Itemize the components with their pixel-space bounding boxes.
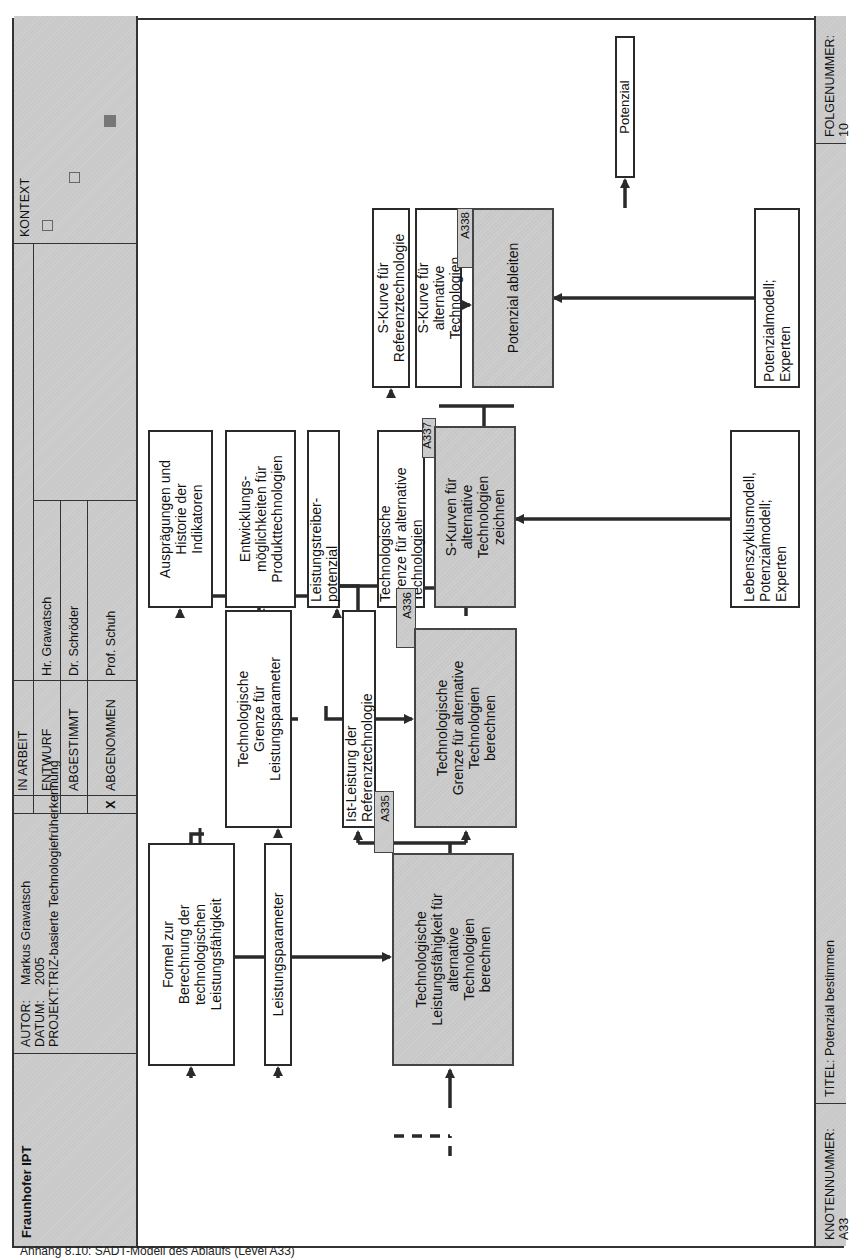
author-label: AUTOR: bbox=[19, 985, 33, 1047]
status-in-arbeit: IN ARBEIT bbox=[14, 680, 34, 795]
status-table: IN ARBEIT ENTWURF Hr. Grawatsch ABGESTIM… bbox=[14, 243, 136, 813]
status-person-3: Prof. Schuh bbox=[88, 500, 136, 680]
context-label: KONTEXT bbox=[18, 178, 32, 237]
activity-a335: Technologische Leistungsfähigkeit für al… bbox=[392, 853, 514, 1066]
status-mark-1 bbox=[34, 795, 61, 813]
output-grenze-alternative: Technologische Grenze für alternative Te… bbox=[377, 430, 425, 608]
context-filled-square-icon bbox=[104, 115, 116, 127]
status-entwurf: ENTWURF bbox=[34, 680, 61, 795]
input-formel: Formel zur Berechnung der technologische… bbox=[148, 843, 235, 1066]
project-label: PROJEKT: bbox=[47, 987, 61, 1047]
input-entwicklung: Entwicklungs- möglichkeiten für Produktt… bbox=[225, 430, 296, 608]
status-mark-0 bbox=[14, 795, 34, 813]
sequence-number: FOLGENUMMER: 10 bbox=[816, 20, 846, 143]
status-person-1: Hr. Grawatsch bbox=[34, 500, 61, 680]
status-spacer bbox=[34, 243, 136, 500]
header-strip: Fraunhofer IPT AUTOR:Markus Grawatsch DA… bbox=[14, 16, 138, 1246]
figure-caption: Anhang 8.10: SADT-Modell des Ablaufs (Le… bbox=[20, 1244, 295, 1258]
node-number: KNOTENNUMMER: A33 bbox=[816, 1103, 846, 1246]
footer-strip: KNOTENNUMMER: A33 TITEL: Potenzial besti… bbox=[814, 16, 846, 1246]
status-person-0 bbox=[14, 243, 34, 680]
context-square-icon bbox=[69, 172, 80, 183]
date-label: DATUM: bbox=[33, 985, 47, 1047]
node-tag-a336: A336 bbox=[396, 588, 416, 648]
output-skurve-alternative: S-Kurve für alternative Technologien bbox=[415, 208, 462, 388]
activity-a338: Potenzial ableiten bbox=[472, 208, 554, 388]
diagram-frame: Fraunhofer IPT AUTOR:Markus Grawatsch DA… bbox=[12, 18, 844, 1248]
context-square-icon bbox=[42, 220, 53, 231]
output-potenzial: Potenzial bbox=[615, 36, 635, 178]
activity-a337: S-Kurven für alternative Technologien ze… bbox=[434, 426, 516, 608]
input-auspraegungen: Ausprägungen und Historie der Indikatore… bbox=[148, 430, 213, 608]
status-person-2: Dr. Schröder bbox=[61, 500, 88, 680]
sadt-diagram-page: Fraunhofer IPT AUTOR:Markus Grawatsch DA… bbox=[12, 12, 848, 1248]
status-mark-2 bbox=[61, 795, 88, 813]
input-leistungsparameter: Leistungsparameter bbox=[264, 843, 292, 1066]
status-abgenommen: ABGENOMMEN bbox=[88, 680, 136, 795]
status-abgestimmt: ABGESTIMMT bbox=[61, 680, 88, 795]
input-leistungstreiber: Leistungstreiber- potenzial bbox=[307, 430, 340, 608]
output-grenze-leistungsparameter: Technologische Grenze für Leistungsparam… bbox=[225, 610, 292, 828]
date-value: 2005 bbox=[33, 957, 47, 985]
author-value: Markus Grawatsch bbox=[19, 881, 33, 985]
output-ist-leistung: Ist-Leistung der Referenztechnologie bbox=[342, 610, 376, 828]
context-cell: KONTEXT bbox=[14, 20, 136, 243]
status-mark-3: X bbox=[88, 795, 136, 813]
organization-label: Fraunhofer IPT bbox=[14, 1053, 136, 1246]
meta-block: AUTOR:Markus Grawatsch DATUM:2005 PROJEK… bbox=[14, 813, 136, 1053]
output-skurve-referenz: S-Kurve für Referenztechnologie bbox=[372, 208, 410, 388]
mechanism-lebenszyklus: Lebenszyklusmodell, Potenzialmodell; Exp… bbox=[730, 430, 800, 608]
mechanism-potenzialmodell: Potenzialmodell; Experten bbox=[754, 208, 800, 388]
diagram-title: TITEL: Potenzial bestimmen bbox=[816, 143, 846, 1103]
node-tag-a335: A335 bbox=[374, 791, 394, 853]
activity-a336: Technologische Grenze für alternative Te… bbox=[414, 628, 517, 828]
